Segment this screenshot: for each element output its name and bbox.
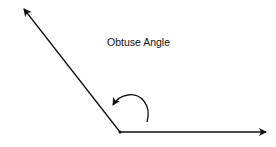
angle-graphic	[0, 0, 276, 147]
angle-arc-arrow	[113, 95, 148, 122]
obtuse-angle-diagram: Obtuse Angle	[0, 0, 276, 147]
upper-left-ray	[24, 9, 120, 132]
diagram-title: Obtuse Angle	[107, 36, 170, 48]
vertex-point	[119, 131, 122, 134]
